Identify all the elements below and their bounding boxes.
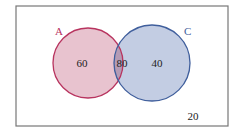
intersection-value: 80 <box>117 57 129 69</box>
a-only-value: 60 <box>77 57 89 69</box>
set-a-label: A <box>55 25 63 37</box>
outside-value: 20 <box>188 110 200 122</box>
set-c-label: C <box>184 25 191 37</box>
c-only-value: 40 <box>152 57 164 69</box>
venn-diagram: A C 60 80 40 20 <box>0 0 234 133</box>
